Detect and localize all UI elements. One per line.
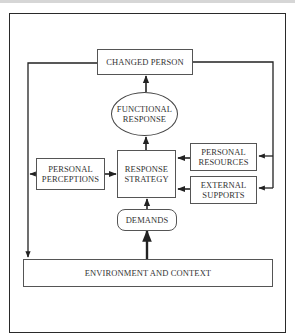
- external-supports-label: EXTERNAL SUPPORTS: [201, 180, 247, 201]
- personal-perceptions-label: PERSONAL PERCEPTIONS: [42, 164, 99, 185]
- personal-perceptions-box: PERSONAL PERCEPTIONS: [36, 158, 105, 190]
- demands-box: DEMANDS: [117, 209, 177, 231]
- personal-perceptions-line-1: PERSONAL: [48, 164, 93, 174]
- external-supports-line-1: EXTERNAL: [201, 180, 247, 190]
- response-strategy-label: RESPONSE STRATEGY: [124, 164, 168, 185]
- functional-response-line-2: RESPONSE: [123, 114, 166, 124]
- functional-response-label: FUNCTIONAL RESPONSE: [117, 104, 172, 125]
- personal-resources-box: PERSONAL RESOURCES: [190, 143, 257, 171]
- response-strategy-line-1: RESPONSE: [125, 164, 168, 174]
- changed-person-label: CHANGED PERSON: [106, 57, 184, 68]
- response-strategy-box: RESPONSE STRATEGY: [117, 150, 176, 198]
- environment-context-label: ENVIRONMENT AND CONTEXT: [85, 268, 211, 279]
- functional-response-line-1: FUNCTIONAL: [117, 104, 172, 114]
- demands-label: DEMANDS: [126, 215, 169, 226]
- external-supports-box: EXTERNAL SUPPORTS: [190, 176, 257, 204]
- personal-resources-line-2: RESOURCES: [198, 157, 248, 167]
- changed-person-box: CHANGED PERSON: [97, 49, 193, 75]
- environment-context-box: ENVIRONMENT AND CONTEXT: [23, 259, 273, 287]
- functional-response-ellipse: FUNCTIONAL RESPONSE: [111, 92, 178, 136]
- personal-resources-label: PERSONAL RESOURCES: [198, 147, 248, 168]
- external-supports-line-2: SUPPORTS: [202, 190, 244, 200]
- response-strategy-line-2: STRATEGY: [124, 174, 168, 184]
- personal-resources-line-1: PERSONAL: [201, 147, 246, 157]
- personal-perceptions-line-2: PERCEPTIONS: [42, 174, 99, 184]
